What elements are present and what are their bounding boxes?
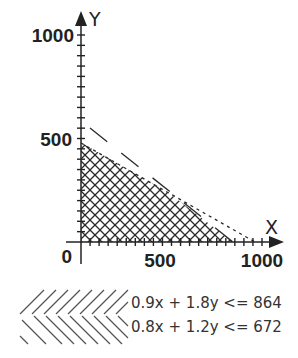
x-axis-name: X xyxy=(265,216,278,238)
y-axis-name: Y xyxy=(88,8,101,30)
feasible-region xyxy=(81,120,261,245)
y-tick-label-1000: 1000 xyxy=(32,25,74,46)
legend-item-constraint-2: 0.8x + 1.2y <= 672 xyxy=(20,316,282,344)
legend-label-constraint-2: 0.8x + 1.2y <= 672 xyxy=(131,318,282,336)
origin-label: 0 xyxy=(61,246,72,267)
legend-item-constraint-1: 0.9x + 1.8y <= 864 xyxy=(20,290,282,314)
y-tick-label-500: 500 xyxy=(40,129,72,150)
lp-feasible-region-chart: Y X 1000 500 0 500 1000 0.9x + 1.8y <= 8… xyxy=(0,0,298,358)
forward-hatch-swatch-icon xyxy=(20,290,128,314)
x-tick-label-1000: 1000 xyxy=(241,250,283,271)
legend-label-constraint-1: 0.9x + 1.8y <= 864 xyxy=(131,294,282,312)
back-hatch-swatch-icon xyxy=(20,316,128,344)
y-axis-arrow-icon xyxy=(75,11,87,26)
x-tick-label-500: 500 xyxy=(144,250,176,271)
legend: 0.9x + 1.8y <= 864 0.8x + 1.2y <= 672 xyxy=(20,290,282,344)
